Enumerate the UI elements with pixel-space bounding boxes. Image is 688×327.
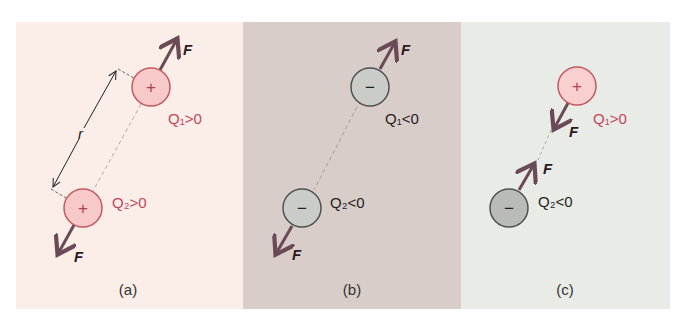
panel-c: F F + Q₁>0 − Q₂<0 (c) bbox=[490, 67, 627, 298]
force-arrow-q1 bbox=[160, 41, 176, 70]
force-arrow-q1 bbox=[555, 103, 568, 127]
charge-q1: + bbox=[132, 68, 170, 106]
center-line bbox=[314, 107, 357, 190]
charge-label-q2: Q₂<0 bbox=[538, 193, 573, 210]
panel-a: r F F + Q₁>0 + Q₂>0 (a) bbox=[51, 41, 202, 298]
charge-q2: + bbox=[64, 189, 102, 227]
charge-q2: − bbox=[490, 189, 528, 227]
force-label-q1: F bbox=[183, 41, 193, 58]
extension-line bbox=[51, 189, 66, 198]
minus-sign-icon: − bbox=[297, 199, 307, 218]
force-arrow-q2 bbox=[277, 226, 292, 252]
charge-q2: − bbox=[283, 189, 321, 227]
charge-label-q1: Q₁>0 bbox=[593, 110, 627, 127]
force-label-q1: F bbox=[569, 123, 579, 140]
minus-sign-icon: − bbox=[365, 78, 375, 97]
charge-label-q2: Q₂>0 bbox=[112, 194, 147, 211]
force-label-q2: F bbox=[74, 248, 84, 265]
center-line bbox=[538, 130, 551, 160]
distance-arrow bbox=[53, 139, 79, 187]
charge-label-q1: Q₁<0 bbox=[385, 110, 419, 127]
panel-caption-b: (b) bbox=[343, 281, 361, 298]
panel-b: F F − Q₁<0 − Q₂<0 (b) bbox=[277, 41, 419, 298]
plus-sign-icon: + bbox=[572, 77, 582, 96]
distance-arrow bbox=[84, 71, 116, 128]
force-label-q2: F bbox=[292, 246, 302, 263]
charge-label-q1: Q₁>0 bbox=[168, 110, 202, 127]
charge-q1: − bbox=[351, 68, 389, 106]
panel-caption-a: (a) bbox=[119, 281, 137, 298]
force-label-q1: F bbox=[401, 41, 411, 58]
force-arrow-q1 bbox=[380, 44, 394, 69]
charge-q1: + bbox=[558, 67, 596, 105]
charge-label-q2: Q₂<0 bbox=[330, 194, 365, 211]
center-line bbox=[93, 104, 141, 191]
coulomb-force-diagram: r F F + Q₁>0 + Q₂>0 (a) F F − Q₁<0 bbox=[0, 0, 688, 327]
force-label-q2: F bbox=[543, 160, 553, 177]
force-arrow-q2 bbox=[519, 166, 533, 190]
minus-sign-icon: − bbox=[504, 199, 514, 218]
plus-sign-icon: + bbox=[78, 199, 88, 218]
distance-label: r bbox=[78, 125, 84, 142]
plus-sign-icon: + bbox=[146, 78, 156, 97]
extension-line bbox=[118, 69, 134, 78]
force-arrow-q2 bbox=[59, 225, 74, 252]
panel-caption-c: (c) bbox=[556, 281, 574, 298]
